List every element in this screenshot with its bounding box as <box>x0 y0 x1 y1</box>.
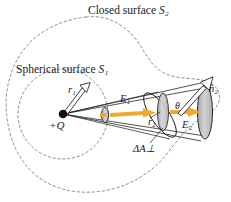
area-perp-leader <box>150 128 163 143</box>
label-radius-r1: r₁ <box>68 85 76 96</box>
diagram-svg <box>0 0 231 202</box>
label-angle-theta: θ <box>175 101 180 111</box>
figure-canvas: Closed surface S₂ Spherical surface S₁ r… <box>0 0 231 202</box>
label-closed-surface: Closed surface S₂ <box>88 5 169 17</box>
label-field-e1: E₁ <box>120 94 130 105</box>
label-area-perpendicular: ΔA⊥ <box>133 144 155 155</box>
label-field-e2: E₂ <box>182 120 192 131</box>
label-point-charge: +Q <box>49 120 64 131</box>
label-radius-r2: r₂ <box>148 117 156 128</box>
point-charge-dot <box>59 110 68 119</box>
label-spherical-surface: Spherical surface S₁ <box>16 64 108 76</box>
label-normal-vector-n2: n̂₂ <box>209 84 218 95</box>
